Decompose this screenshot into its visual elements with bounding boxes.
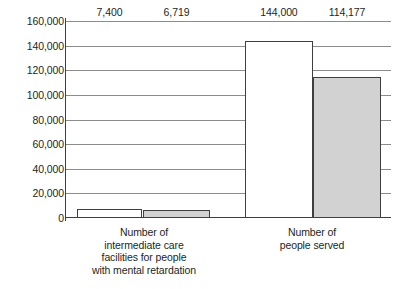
bar-series-1-category-2 (245, 41, 313, 218)
gridline-120000 (66, 70, 391, 71)
gridline-140000 (66, 46, 391, 47)
y-axis-tick-labels: 160,000 140,000 120,000 100,000 80,000 6… (0, 0, 64, 289)
x-category-label-1-line-4: with mental retardation (64, 264, 224, 277)
y-tick-label: 120,000 (2, 65, 64, 76)
x-category-label-1-line-3: facilities for people (64, 251, 224, 264)
bar-value-label: 7,400 (77, 7, 142, 18)
y-tick-label: 160,000 (2, 16, 64, 27)
y-tick-label: 0 (2, 213, 64, 224)
y-tick-label: 20,000 (2, 188, 64, 199)
y-tick-label: 100,000 (2, 90, 64, 101)
y-tick-label: 140,000 (2, 40, 64, 51)
x-category-label-1: Number of intermediate care facilities f… (64, 226, 224, 276)
y-tick-label: 80,000 (2, 114, 64, 125)
plot-area: 7,400 6,719 144,000 114,177 (66, 21, 391, 218)
x-category-label-2-line-2: people served (232, 239, 392, 252)
x-category-label-1-line-2: intermediate care (64, 239, 224, 252)
bar-value-label: 114,177 (313, 7, 381, 18)
bar-chart: 160,000 140,000 120,000 100,000 80,000 6… (0, 0, 406, 289)
x-category-label-1-line-1: Number of (64, 226, 224, 239)
x-category-label-2: Number of people served (232, 226, 392, 251)
bar-value-label: 144,000 (245, 7, 313, 18)
bar-value-label: 6,719 (143, 7, 210, 18)
bar-series-1-category-1 (77, 209, 142, 218)
bar-series-2-category-1 (143, 210, 210, 218)
y-tick-label: 40,000 (2, 164, 64, 175)
gridline-160000 (66, 21, 391, 22)
y-tick-label: 60,000 (2, 139, 64, 150)
bar-series-2-category-2 (313, 77, 381, 218)
x-category-label-2-line-1: Number of (232, 226, 392, 239)
